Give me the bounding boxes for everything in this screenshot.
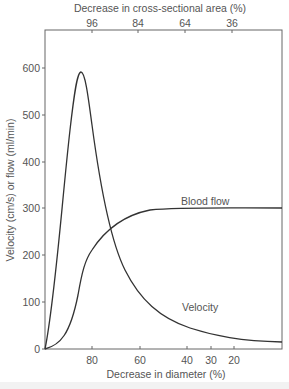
x2-tick-label: 36 [226,17,238,29]
x2-tick-label: 64 [179,17,191,29]
x2-tick-label: 96 [86,17,98,29]
chart: Decrease in cross-sectional area (%) 96 … [0,0,289,389]
svg-text:40: 40 [181,354,193,366]
x-axis-title: Decrease in diameter (%) [106,368,225,380]
y-axis-title: Velocity (cm/s) or flow (ml/min) [4,119,16,262]
bottom-strip [0,382,289,389]
svg-text:600: 600 [22,62,40,74]
svg-text:200: 200 [22,249,40,261]
x-tick-labels: 80 60 40 30 20 [86,354,240,366]
svg-text:300: 300 [22,202,40,214]
svg-text:30: 30 [205,354,217,366]
blood-flow-label: Blood flow [181,195,230,207]
y-tick-labels: 0 100 200 300 400 500 600 [22,62,40,355]
x2-axis-title: Decrease in cross-sectional area (%) [74,2,246,14]
svg-text:80: 80 [86,354,98,366]
velocity-curve [45,72,282,349]
svg-text:100: 100 [22,296,40,308]
plot-frame [45,30,282,349]
svg-text:60: 60 [134,354,146,366]
blood-flow-curve [45,208,282,349]
svg-text:20: 20 [228,354,240,366]
svg-text:400: 400 [22,156,40,168]
svg-text:500: 500 [22,109,40,121]
x2-tick-label: 84 [132,17,144,29]
velocity-label: Velocity [182,301,219,313]
svg-text:0: 0 [34,343,40,355]
